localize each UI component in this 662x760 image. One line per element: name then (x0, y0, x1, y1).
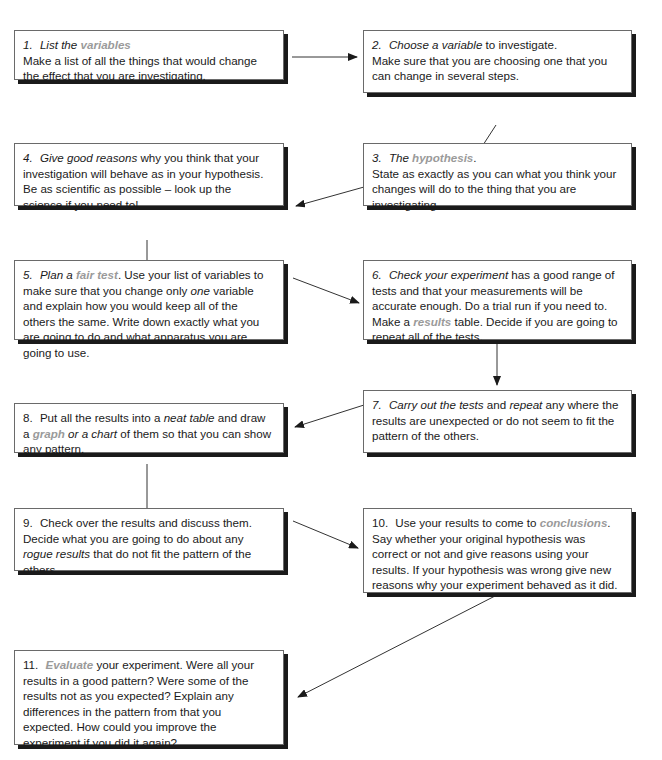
step-11-box: 11. Evaluate your experiment. Were all y… (14, 650, 284, 745)
step-text: Make a list of all the things that would… (23, 54, 257, 83)
arrow-7-to-8 (295, 405, 364, 427)
flow-arrows (0, 0, 662, 760)
step-8-box: 8. Put all the results into a neat table… (14, 403, 284, 453)
step-number: 4. (23, 151, 36, 164)
step-number: 11. (23, 658, 41, 671)
step-text: Put all the results into a (40, 411, 164, 424)
step-text: to investigate. (482, 38, 557, 51)
step-number: 5. (23, 268, 36, 281)
highlight-keyword: fair test (76, 268, 118, 281)
step-3-box: 3. The hypothesis.State as exactly as yo… (363, 143, 632, 206)
step-number: 8. (23, 411, 36, 424)
arrow-10-to-11 (298, 596, 495, 697)
highlight-keyword: results (413, 315, 451, 328)
step-text: The (389, 151, 412, 164)
step-10-box: 10. Use your results to come to conclusi… (363, 508, 632, 593)
step-number: 3. (372, 151, 385, 164)
step-text: rogue results (23, 547, 90, 560)
highlight-keyword: hypothesis (412, 151, 473, 164)
step-number: 9. (23, 516, 36, 529)
step-9-box: 9. Check over the results and discuss th… (14, 508, 284, 571)
step-text: Give good reasons (40, 151, 137, 164)
highlight-keyword: graph (33, 427, 65, 440)
step-1-box: 1. List the variablesMake a list of all … (14, 30, 284, 80)
step-number: 1. (23, 38, 36, 51)
step-number: 10. (372, 516, 391, 529)
step-2-box: 2. Choose a variable to investigate.Make… (363, 30, 632, 93)
step-text: Check your experiment (389, 268, 508, 281)
step-5-box: 5. Plan a fair test. Use your list of va… (14, 260, 284, 340)
step-text: Use your results to come to (395, 516, 539, 529)
arrow-3-to-4 (296, 187, 364, 206)
highlight-keyword: conclusions (540, 516, 608, 529)
step-7-box: 7. Carry out the tests and repeat any wh… (363, 390, 632, 453)
arrow-9-to-10 (293, 521, 358, 548)
step-number: 6. (372, 268, 385, 281)
step-text: neat table (164, 411, 215, 424)
step-text: one (191, 284, 210, 297)
step-number: 2. (372, 38, 385, 51)
arrow-5-to-6 (293, 278, 359, 303)
step-text: Carry out the tests (389, 398, 484, 411)
step-text: your experiment. Were all your results i… (23, 658, 254, 749)
step-4-box: 4. Give good reasons why you think that … (14, 143, 284, 206)
step-6-box: 6. Check your experiment has a good rang… (363, 260, 632, 340)
step-text: . (473, 151, 476, 164)
highlight-keyword: Evaluate (45, 658, 93, 671)
step-text: repeat (509, 398, 542, 411)
step-text: State as exactly as you can what you thi… (372, 167, 616, 211)
step-text: or a chart (65, 427, 117, 440)
step-text: and (484, 398, 510, 411)
step-text: List the (40, 38, 81, 51)
step-text: Make sure that you are choosing one that… (372, 54, 607, 83)
step-text: Choose a variable (389, 38, 482, 51)
highlight-keyword: variables (81, 38, 131, 51)
step-number: 7. (372, 398, 385, 411)
step-text: Plan a (40, 268, 76, 281)
step-text: Check over the results and discuss them.… (23, 516, 252, 545)
